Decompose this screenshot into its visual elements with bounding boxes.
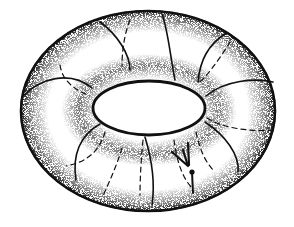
torus-diagram: torus (0, 0, 294, 227)
marked-point (189, 169, 194, 174)
torus-svg (0, 0, 294, 227)
torus-hole (93, 81, 205, 135)
